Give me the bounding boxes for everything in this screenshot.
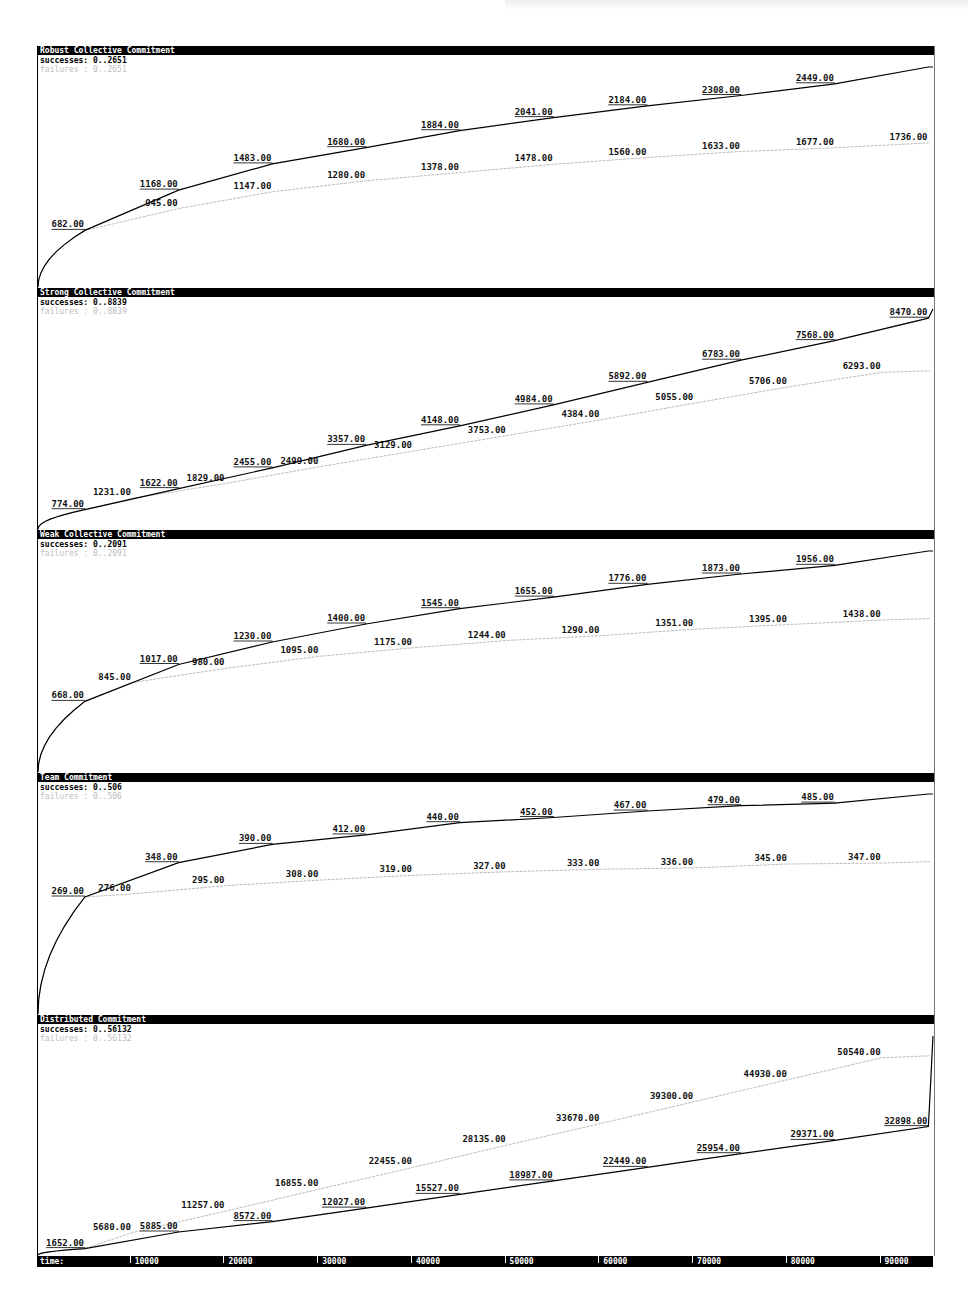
- label-underline: [884, 1126, 928, 1127]
- failures-value-label: 845.00: [98, 672, 131, 682]
- successes-value-label: 440.00: [426, 812, 459, 822]
- failures-value-label: 1677.00: [796, 137, 834, 147]
- successes-value-label: 25954.00: [697, 1143, 740, 1153]
- label-underline: [52, 700, 85, 701]
- time-axis: time: 1000020000300004000050000600007000…: [37, 1256, 933, 1267]
- failures-value-label: 44930.00: [744, 1069, 787, 1079]
- successes-value-label: 3357.00: [327, 434, 365, 444]
- label-underline: [697, 1153, 741, 1154]
- successes-value-label: 467.00: [614, 800, 647, 810]
- successes-value-label: 6783.00: [702, 349, 740, 359]
- successes-value-label: 1483.00: [234, 153, 272, 163]
- failures-value-label: 327.00: [473, 861, 506, 871]
- failures-value-label: 6293.00: [843, 361, 881, 371]
- plot-area: 5680.0011257.0016855.0022455.0028135.003…: [38, 1024, 934, 1256]
- successes-value-label: 29371.00: [791, 1129, 834, 1139]
- failures-line: [38, 862, 930, 1014]
- label-underline: [234, 467, 273, 468]
- failures-value-label: 3129.00: [374, 440, 412, 450]
- panel-title: Team Commitment: [38, 773, 934, 782]
- label-underline: [52, 229, 85, 230]
- time-tick-label: 70000: [692, 1256, 721, 1263]
- failures-value-label: 295.00: [192, 875, 225, 885]
- label-underline: [145, 862, 178, 863]
- label-underline: [702, 95, 741, 96]
- successes-value-label: 5892.00: [608, 371, 646, 381]
- failures-value-label: 5055.00: [655, 392, 693, 402]
- label-underline: [791, 1139, 835, 1140]
- successes-value-label: 4984.00: [515, 394, 553, 404]
- failures-value-label: 1147.00: [234, 181, 272, 191]
- plot-area: 945.001147.001280.001378.001478.001560.0…: [38, 55, 934, 288]
- failures-value-label: 1231.00: [93, 487, 131, 497]
- successes-value-label: 1776.00: [608, 573, 646, 583]
- failures-value-label: 5706.00: [749, 376, 787, 386]
- failures-value-label: 319.00: [380, 864, 413, 874]
- successes-range-label: successes: 0..56132: [40, 1025, 132, 1034]
- failures-value-label: 3753.00: [468, 425, 506, 435]
- panel-title: Weak Collective Commitment: [38, 530, 934, 539]
- successes-line: [38, 794, 933, 1014]
- label-underline: [796, 340, 835, 341]
- successes-value-label: 774.00: [52, 499, 85, 509]
- line-chart: 845.00980.001095.001175.001244.001290.00…: [38, 539, 934, 773]
- panel-distributed-commitment: Distributed Commitment 5680.0011257.0016…: [37, 1015, 935, 1256]
- failures-line: [38, 371, 930, 529]
- successes-value-label: 7568.00: [796, 330, 834, 340]
- failures-value-label: 1095.00: [280, 645, 318, 655]
- successes-value-label: 2308.00: [702, 85, 740, 95]
- successes-value-label: 1652.00: [46, 1238, 84, 1248]
- label-underline: [702, 573, 741, 574]
- successes-value-label: 32898.00: [884, 1116, 927, 1126]
- label-underline: [239, 843, 272, 844]
- failures-line: [38, 619, 930, 773]
- label-underline: [796, 83, 835, 84]
- panel-title: Distributed Commitment: [38, 1015, 934, 1024]
- failures-value-label: 28135.00: [462, 1134, 505, 1144]
- failures-range-label: failures : 0..506: [40, 792, 122, 801]
- label-underline: [52, 509, 85, 510]
- successes-value-label: 682.00: [52, 219, 85, 229]
- panel-title: Robust Collective Commitment: [38, 46, 934, 55]
- label-underline: [515, 596, 554, 597]
- label-underline: [333, 834, 366, 835]
- panel-robust-collective-commitment: Robust Collective Commitment 945.001147.…: [37, 46, 935, 288]
- label-underline: [515, 404, 554, 405]
- label-underline: [234, 1221, 273, 1222]
- failures-value-label: 1736.00: [890, 132, 928, 142]
- label-underline: [416, 1193, 460, 1194]
- successes-value-label: 269.00: [52, 886, 85, 896]
- failures-value-label: 4384.00: [562, 409, 600, 419]
- successes-value-label: 22449.00: [603, 1156, 646, 1166]
- label-underline: [702, 359, 741, 360]
- successes-value-label: 4148.00: [421, 415, 459, 425]
- failures-value-label: 39300.00: [650, 1091, 693, 1101]
- failures-value-label: 1633.00: [702, 141, 740, 151]
- successes-value-label: 5885.00: [140, 1221, 178, 1231]
- successes-range-label: successes: 0..2091: [40, 540, 127, 549]
- label-underline: [52, 896, 85, 897]
- failures-value-label: 33670.00: [556, 1113, 599, 1123]
- time-axis-label: time:: [40, 1256, 64, 1267]
- label-underline: [515, 117, 554, 118]
- failures-value-label: 308.00: [286, 869, 319, 879]
- plot-area: 276.00295.00308.00319.00327.00333.00336.…: [38, 782, 934, 1015]
- failures-value-label: 16855.00: [275, 1178, 318, 1188]
- successes-value-label: 1680.00: [327, 137, 365, 147]
- failures-value-label: 1478.00: [515, 153, 553, 163]
- label-underline: [426, 822, 459, 823]
- failures-value-label: 1290.00: [562, 625, 600, 635]
- failures-value-label: 5680.00: [93, 1222, 131, 1232]
- failures-value-label: 50540.00: [837, 1047, 880, 1057]
- failures-value-label: 1280.00: [327, 170, 365, 180]
- successes-value-label: 1400.00: [327, 613, 365, 623]
- successes-line: [38, 309, 933, 529]
- successes-value-label: 18987.00: [509, 1170, 552, 1180]
- failures-value-label: 1395.00: [749, 614, 787, 624]
- line-chart: 276.00295.00308.00319.00327.00333.00336.…: [38, 782, 934, 1015]
- time-tick-label: 50000: [505, 1256, 534, 1263]
- failures-value-label: 1438.00: [843, 609, 881, 619]
- label-underline: [603, 1166, 647, 1167]
- successes-value-label: 479.00: [708, 795, 741, 805]
- failures-value-label: 1244.00: [468, 630, 506, 640]
